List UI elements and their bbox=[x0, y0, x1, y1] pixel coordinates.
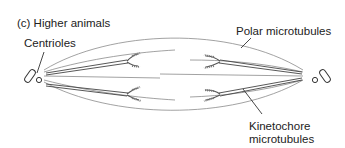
chromosomes-right bbox=[206, 56, 220, 100]
panel-title: (c) Higher animals bbox=[17, 17, 110, 30]
centriole-left bbox=[24, 69, 42, 84]
centrioles-leader bbox=[37, 52, 44, 73]
chromosome-arms-left bbox=[132, 53, 141, 101]
kinetochore-microtubules-label-line1: Kinetochore bbox=[249, 120, 310, 133]
centrioles-label: Centrioles bbox=[24, 37, 76, 50]
kinetochore-leader bbox=[243, 89, 262, 114]
chromosomes-left bbox=[127, 54, 139, 100]
kinetochore-microtubules-right bbox=[219, 60, 302, 96]
kinetochore-microtubules-label-line2: microtubules bbox=[249, 133, 314, 146]
kinetochore-microtubules-left bbox=[46, 60, 128, 96]
polar-microtubules-label: Polar microtubules bbox=[236, 25, 331, 38]
spindle-diagram: (c) Higher animals Centrioles Polar micr… bbox=[0, 0, 345, 148]
centriole-right bbox=[312, 69, 331, 84]
polar-microtubules-inner bbox=[44, 50, 303, 100]
chromosome-arms-right bbox=[204, 55, 214, 101]
